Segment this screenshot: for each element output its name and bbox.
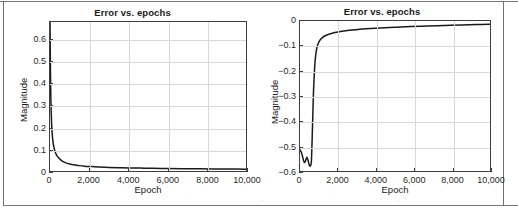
y-tick-label: 0.3 — [22, 100, 46, 110]
gridline-horizontal — [50, 62, 246, 63]
y-tick-label: −0.4 — [272, 116, 296, 126]
chart-panel-left: Error vs. epochs Magnitude Epoch 02,0004… — [4, 0, 261, 211]
gridline-vertical — [129, 22, 130, 171]
plot-area-right — [299, 20, 491, 172]
x-tick-label: 10,000 — [477, 175, 505, 185]
x-tick — [207, 168, 208, 172]
x-tick-label: 4,000 — [117, 175, 140, 185]
y-tick-label: −0.2 — [272, 66, 296, 76]
y-tick-label: −0.3 — [272, 91, 296, 101]
y-tick — [299, 147, 303, 148]
gridline-horizontal — [300, 97, 490, 98]
y-tick-label: 0.4 — [22, 78, 46, 88]
chart-title-left: Error vs. epochs — [4, 7, 261, 18]
error-curve-left — [50, 22, 246, 171]
x-axis-label-left: Epoch — [49, 184, 247, 195]
x-tick-label: 2,000 — [326, 175, 349, 185]
gridline-horizontal — [300, 148, 490, 149]
gridline-horizontal — [300, 122, 490, 123]
gridline-horizontal — [50, 151, 246, 152]
x-tick — [414, 168, 415, 172]
x-tick-label: 6,000 — [157, 175, 180, 185]
x-tick — [491, 168, 492, 172]
x-tick — [247, 168, 248, 172]
x-tick-label: 4,000 — [365, 175, 388, 185]
y-tick-label: 0.6 — [22, 34, 46, 44]
x-tick — [89, 168, 90, 172]
x-axis-label-right: Epoch — [299, 184, 491, 195]
data-line-left — [50, 22, 246, 169]
y-tick-label: 0.1 — [22, 145, 46, 155]
gridline-horizontal — [300, 46, 490, 47]
gridline-horizontal — [50, 106, 246, 107]
y-tick — [49, 61, 53, 62]
x-tick — [168, 168, 169, 172]
x-tick-label: 6,000 — [403, 175, 426, 185]
gridline-vertical — [169, 22, 170, 171]
x-tick — [128, 168, 129, 172]
y-tick — [299, 45, 303, 46]
y-tick-label: −0.5 — [272, 142, 296, 152]
y-tick-label: −0.1 — [272, 40, 296, 50]
y-tick-label: 0.2 — [22, 123, 46, 133]
chart-panel-right: Error vs. epochs Magnitude Epoch 02,0004… — [261, 0, 503, 211]
x-tick-label: 0 — [296, 175, 301, 185]
y-tick — [49, 172, 53, 173]
y-tick — [49, 83, 53, 84]
gridline-vertical — [90, 22, 91, 171]
y-tick — [299, 172, 303, 173]
gridline-horizontal — [50, 84, 246, 85]
x-tick-label: 8,000 — [196, 175, 219, 185]
plot-area-left — [49, 21, 247, 172]
x-tick-label: 0 — [46, 175, 51, 185]
y-tick — [49, 39, 53, 40]
gridline-vertical — [208, 22, 209, 171]
x-tick-label: 8,000 — [441, 175, 464, 185]
y-tick-label: 0 — [272, 15, 296, 25]
gridline-horizontal — [300, 72, 490, 73]
y-tick — [49, 150, 53, 151]
x-tick-label: 2,000 — [77, 175, 100, 185]
y-tick — [299, 121, 303, 122]
y-tick — [299, 96, 303, 97]
y-tick — [299, 71, 303, 72]
y-tick — [49, 105, 53, 106]
y-tick-label: 0 — [22, 167, 46, 177]
gridline-horizontal — [50, 40, 246, 41]
y-tick — [49, 128, 53, 129]
x-tick-label: 10,000 — [233, 175, 261, 185]
y-tick-label: 0.5 — [22, 56, 46, 66]
gridline-horizontal — [50, 129, 246, 130]
x-tick — [337, 168, 338, 172]
y-tick-label: −0.6 — [272, 167, 296, 177]
chart-title-right: Error vs. epochs — [261, 6, 503, 17]
x-tick — [453, 168, 454, 172]
y-tick — [299, 20, 303, 21]
x-tick — [376, 168, 377, 172]
